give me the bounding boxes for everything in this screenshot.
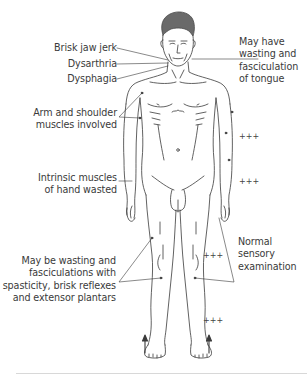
label-line: Intrinsic muscles xyxy=(38,172,117,184)
head xyxy=(161,12,196,66)
label-line: Arm and shoulder xyxy=(33,107,117,119)
label-normal-sensory: Normal sensory examination xyxy=(238,236,297,273)
label-line: wasting and xyxy=(239,48,298,60)
label-line: of tongue xyxy=(239,73,298,85)
label-line: spasticity, brisk reflexes xyxy=(3,280,116,292)
label-line: of hand wasted xyxy=(38,184,117,196)
torso xyxy=(126,62,230,212)
label-line: Normal xyxy=(238,236,297,248)
label-dysphagia: Dysphagia xyxy=(67,73,117,85)
label-hand-wasted: Intrinsic muscles of hand wasted xyxy=(38,172,117,197)
sensory-mark-forearm: +++ xyxy=(239,177,259,186)
label-arm-shoulder: Arm and shoulder muscles involved xyxy=(33,107,117,132)
label-line: muscles involved xyxy=(33,119,117,131)
label-line: and extensor plantars xyxy=(3,292,116,304)
label-dysarthria: Dysarthria xyxy=(68,58,117,70)
sensory-mark-thigh: +++ xyxy=(203,251,223,260)
plantar-arrows xyxy=(143,335,212,353)
label-brisk-jaw-jerk: Brisk jaw jerk xyxy=(54,42,117,54)
label-leg-signs: May be wasting and fasciculations with s… xyxy=(3,255,116,304)
label-line: May be wasting and xyxy=(3,255,116,267)
label-line: sensory xyxy=(238,248,297,260)
bottom-divider xyxy=(16,373,307,374)
legs xyxy=(144,195,211,358)
label-line: May have xyxy=(239,36,298,48)
label-tongue: May have wasting and fasciculation of to… xyxy=(239,36,298,85)
label-line: examination xyxy=(238,261,297,273)
sensory-mark-shin: +++ xyxy=(203,316,223,325)
sensory-mark-upper-arm: +++ xyxy=(239,132,259,141)
label-line: fasciculations with xyxy=(3,267,116,279)
label-line: fasciculation xyxy=(239,61,298,73)
